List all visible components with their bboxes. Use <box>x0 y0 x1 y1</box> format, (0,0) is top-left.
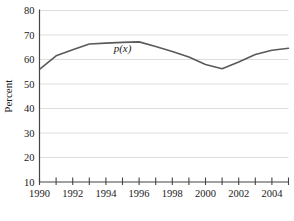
y-tick-label: 30 <box>24 128 35 139</box>
x-tick-label: 1996 <box>129 188 150 199</box>
y-tick-label: 70 <box>24 30 35 41</box>
x-tick-label: 2002 <box>228 188 249 199</box>
x-tick-label: 1998 <box>162 188 183 199</box>
y-tick-label: 60 <box>24 54 35 65</box>
x-tick-label: 1992 <box>62 188 83 199</box>
line-chart: 1020304050607080 19901992199419961998200… <box>0 0 294 221</box>
y-axis-title: Percent <box>2 80 14 113</box>
series-label: p(x) <box>113 42 132 55</box>
y-tick-label: 80 <box>24 5 35 16</box>
x-tick-label: 1994 <box>95 188 117 199</box>
chart-container: 1020304050607080 19901992199419961998200… <box>0 0 294 221</box>
x-tick-label: 1990 <box>29 188 50 199</box>
y-tick-label: 20 <box>24 152 35 163</box>
x-tick-label: 2000 <box>195 188 216 199</box>
y-tick-label: 50 <box>24 79 35 90</box>
y-tick-label: 40 <box>24 103 35 114</box>
x-tick-label: 2004 <box>261 188 283 199</box>
y-tick-label: 10 <box>24 177 35 188</box>
